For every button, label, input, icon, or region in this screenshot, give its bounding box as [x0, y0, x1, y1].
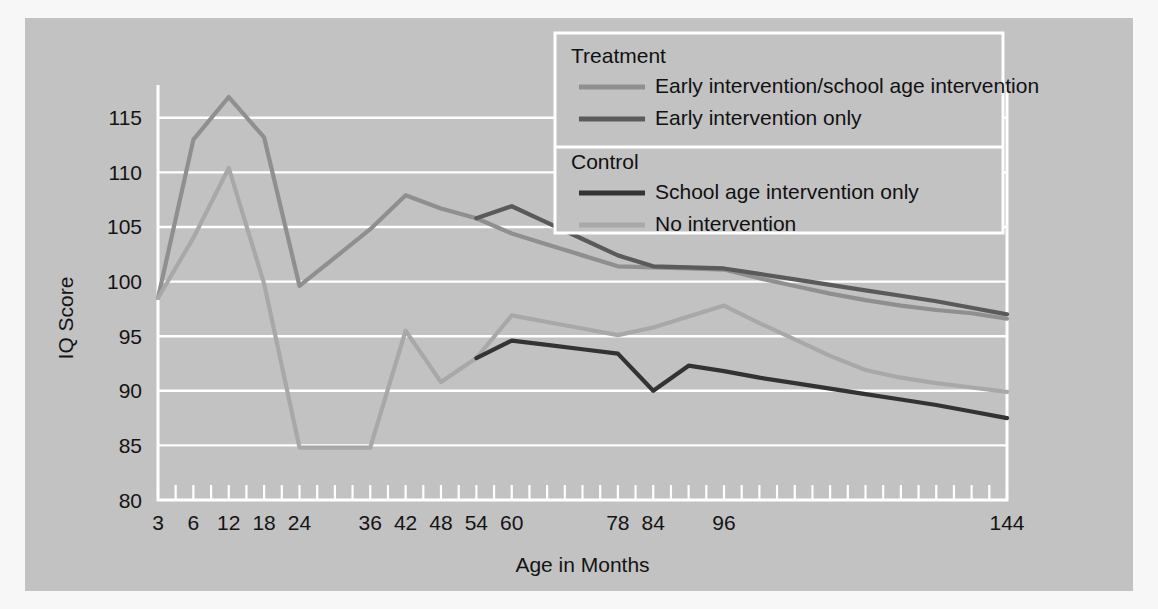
legend-label-0-0[interactable]: Early intervention/school age interventi… [655, 74, 1039, 97]
x-axis-tick-label: 144 [989, 511, 1024, 534]
x-axis-tick-label: 78 [606, 511, 629, 534]
y-axis-title: IQ Score [54, 277, 77, 360]
x-axis-tick-label: 96 [712, 511, 735, 534]
x-axis-tick-label: 84 [642, 511, 666, 534]
x-axis-tick-label: 3 [152, 511, 164, 534]
legend-label-1-1[interactable]: No intervention [655, 212, 796, 235]
legend-label-1-0[interactable]: School age intervention only [655, 180, 919, 203]
legend-label-0-1[interactable]: Early intervention only [655, 106, 862, 129]
x-axis-title: Age in Months [515, 553, 649, 576]
x-axis-tick-label: 24 [288, 511, 312, 534]
chart-plot-area: 80859095100105110115 3612182436424854607… [25, 18, 1133, 591]
x-axis-tick-label: 12 [217, 511, 240, 534]
x-axis-tick-label: 36 [359, 511, 382, 534]
y-axis-tick-label: 90 [119, 379, 142, 402]
y-axis-tick-label: 85 [119, 434, 142, 457]
y-axis-tick-labels: 80859095100105110115 [107, 106, 142, 511]
iq-score-line-chart: 80859095100105110115 3612182436424854607… [25, 18, 1133, 591]
y-axis-tick-label: 115 [109, 106, 142, 129]
figure-container: 80859095100105110115 3612182436424854607… [25, 18, 1133, 591]
legend-group-heading-1: Control [571, 150, 639, 173]
y-axis-tick-label: 95 [119, 325, 142, 348]
x-axis-tick-label: 60 [500, 511, 523, 534]
series-line-2 [476, 341, 1007, 419]
x-axis-tick-label: 42 [394, 511, 417, 534]
x-axis-ticks-group [158, 485, 1007, 500]
x-axis-tick-label: 48 [429, 511, 452, 534]
x-axis-tick-label: 18 [252, 511, 275, 534]
y-axis-tick-label: 80 [119, 489, 142, 512]
y-axis-tick-label: 100 [107, 270, 142, 293]
x-axis-tick-labels: 361218243642485460788496144 [152, 511, 1025, 534]
x-axis-tick-label: 54 [465, 511, 489, 534]
y-axis-tick-label: 105 [107, 215, 142, 238]
x-axis-tick-label: 6 [188, 511, 200, 534]
y-axis-tick-label: 110 [109, 161, 142, 184]
chart-legend[interactable]: TreatmentEarly intervention/school age i… [555, 33, 1039, 235]
legend-group-heading-0: Treatment [571, 44, 666, 67]
